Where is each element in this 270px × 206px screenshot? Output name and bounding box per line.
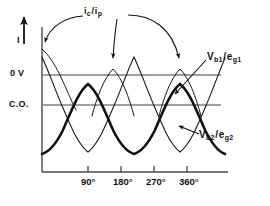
x-tick-label-270: 270° [146,177,166,187]
curve-ic-ip-peak-left [42,49,76,110]
annotation-arrow-ic-ip-middle [113,19,117,58]
y-axis-label-current: I [17,36,20,45]
ic-ip-sub-2: p [98,10,103,17]
plot-canvas [0,0,270,206]
vb2-main-1: V [199,129,206,140]
annotation-arrow-ic-ip-left [45,16,83,42]
waveform-figure: I 0 V C.O. ic/ip Vb1/eg1 Vb2/eg2 90° 180… [0,0,270,206]
zero-volt-label: 0 V [10,69,24,78]
annotation-arrow-vb2-eg2 [179,126,199,134]
vb1-sub-1: b1 [214,56,223,63]
vb1-sub-2: g1 [233,56,242,63]
annotation-arrow-ic-ip-right [128,15,179,58]
curve-vb2-eg2 [42,84,225,154]
vb2-sub-2: g2 [225,134,234,141]
annotation-arrow-vb1-eg1 [175,60,206,94]
curve-label-vb1-eg1: Vb1/eg1 [207,52,242,63]
x-tick-label-180: 180° [113,177,133,187]
x-tick-label-360: 360° [179,177,199,187]
annotation-label-ic-ip: ic/ip [84,7,102,17]
vb2-sub-1: b2 [206,134,215,141]
x-tick-label-90: 90° [81,177,95,187]
vb1-main-1: V [207,51,214,62]
cutoff-label: C.O. [9,100,29,109]
curve-label-vb2-eg2: Vb2/eg2 [199,130,234,141]
